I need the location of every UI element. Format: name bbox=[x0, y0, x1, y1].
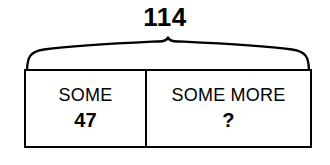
bar-part-unknown-label: SOME MORE bbox=[172, 85, 286, 106]
bar-model-diagram: 114 SOME 47 SOME MORE ? bbox=[0, 0, 330, 165]
bar-model-container: SOME 47 SOME MORE ? bbox=[24, 69, 312, 148]
bar-part-known-label: SOME bbox=[59, 85, 113, 106]
bar-part-unknown: SOME MORE ? bbox=[147, 71, 310, 146]
total-label: 114 bbox=[0, 4, 330, 30]
bar-part-known-value: 47 bbox=[74, 109, 97, 132]
bar-part-known: SOME 47 bbox=[26, 71, 147, 146]
curly-brace-icon bbox=[24, 37, 312, 71]
bar-part-unknown-value: ? bbox=[222, 109, 234, 132]
